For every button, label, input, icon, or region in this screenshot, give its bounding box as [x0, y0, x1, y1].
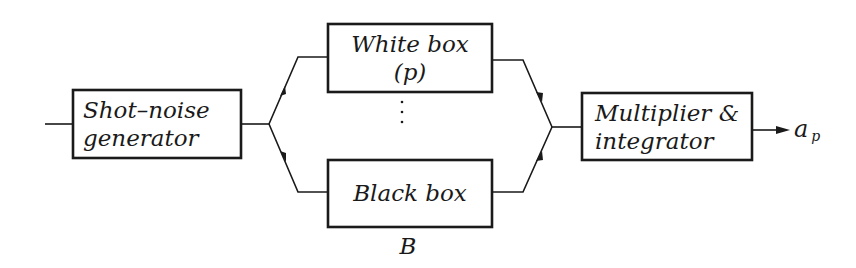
upper-merge-wire [492, 60, 552, 127]
block-diagram: Shot–noise generator White box (p) Black… [0, 0, 856, 268]
lower-merge-wire [492, 127, 552, 192]
white-box-label: White box [351, 31, 469, 57]
upper-merge-arrow-icon [536, 92, 543, 102]
black-box-block: Black box [328, 160, 492, 227]
multiplier-label-line2: integrator [595, 128, 716, 154]
upper-branch-wire [269, 57, 328, 124]
multiplier-integrator-block: Multiplier & integrator [582, 93, 752, 160]
black-box-caption: B [399, 233, 417, 259]
upper-branch-arrow-icon [280, 86, 286, 96]
output-symbol: ap [794, 115, 820, 144]
lower-branch-wire [269, 124, 328, 192]
shot-noise-generator-block: Shot–noise generator [73, 90, 241, 158]
black-box-label: Black box [352, 180, 467, 206]
multiplier-label-line1: Multiplier & [594, 100, 739, 126]
lower-merge-arrow-icon [536, 151, 543, 161]
ellipsis-dots [401, 101, 404, 124]
output-arrow-icon [776, 126, 790, 134]
shot-noise-label-line1: Shot–noise [83, 97, 210, 123]
white-box-block: White box (p) [328, 24, 492, 92]
shot-noise-label-line2: generator [83, 125, 201, 151]
white-box-param: (p) [394, 59, 427, 85]
